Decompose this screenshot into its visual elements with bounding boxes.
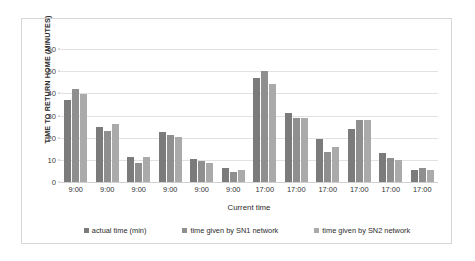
legend-item[interactable]: actual time (min) [84,226,147,235]
x-axis-tick-label: 17:00 [375,185,407,194]
legend-item[interactable]: time given by SN2 network [314,226,410,235]
bar [324,152,331,182]
bar [293,118,300,182]
bar-group [407,49,439,182]
bar [230,172,237,182]
bar-group [155,49,187,182]
x-axis-tick-label: 9:00 [60,185,92,194]
bar [261,71,268,182]
legend-label: actual time (min) [92,226,147,235]
bar-groups [60,49,438,182]
y-axis-tick-label: 10 [48,155,56,164]
x-axis-tick-label: 9:00 [155,185,187,194]
y-axis-title: TIME TO RETURN HOME (MINUTES) [43,10,52,150]
bar [348,129,355,182]
x-axis-tick-label: 17:00 [344,185,376,194]
bar-group [218,49,250,182]
bar [175,137,182,182]
bar [104,131,111,182]
chart-legend: actual time (min)time given by SN1 netwo… [52,226,442,235]
legend-item[interactable]: time given by SN1 network [182,226,278,235]
bar [285,113,292,182]
y-axis-tick-label: 50 [48,67,56,76]
y-axis-tick-label: 0 [52,178,56,187]
bar [332,147,339,182]
chart-figure: TIME TO RETURN HOME (MINUTES) 0102030405… [0,0,475,261]
bar-group [249,49,281,182]
bar [198,161,205,182]
bar [316,139,323,182]
bar [427,170,434,182]
bar [379,153,386,182]
legend-label: time given by SN2 network [322,226,410,235]
bar-group [123,49,155,182]
bar-group [60,49,92,182]
bar [356,120,363,182]
bar [127,157,134,182]
bar-group [186,49,218,182]
bar [64,100,71,182]
x-axis-title: Current time [60,203,438,212]
y-axis-tick-label: 30 [48,111,56,120]
legend-label: time given by SN1 network [190,226,278,235]
bar [143,157,150,182]
bar [253,78,260,182]
x-axis-tick-label: 9:00 [218,185,250,194]
x-axis-tick-label: 9:00 [123,185,155,194]
bar [301,118,308,182]
x-axis-tick-label: 17:00 [281,185,313,194]
gridline [60,182,438,183]
x-axis-tick-label: 17:00 [249,185,281,194]
legend-swatch-icon [314,228,319,233]
bar [159,132,166,182]
y-axis-tick-label: 20 [48,133,56,142]
bar [72,89,79,182]
x-axis-tick-label: 9:00 [92,185,124,194]
y-axis-tick-label: 60 [48,45,56,54]
bar [269,84,276,182]
bar-group [312,49,344,182]
bar [364,120,371,182]
x-axis-tick-label: 17:00 [312,185,344,194]
bar [112,124,119,182]
bar [419,168,426,182]
bar [206,163,213,182]
x-axis-tick-label: 9:00 [186,185,218,194]
bar [190,159,197,182]
bar [96,127,103,182]
bar-group [281,49,313,182]
bar [80,94,87,182]
bar [135,163,142,182]
bar [411,170,418,182]
bar-group [375,49,407,182]
bar [222,168,229,182]
x-axis-tick-labels: 9:009:009:009:009:009:0017:0017:0017:001… [60,185,438,194]
x-axis-tick-label: 17:00 [407,185,439,194]
chart-frame: TIME TO RETURN HOME (MINUTES) 0102030405… [21,18,452,244]
bar-group [92,49,124,182]
bar [238,170,245,182]
y-axis-tick-label: 40 [48,89,56,98]
bar-group [344,49,376,182]
legend-swatch-icon [84,228,89,233]
bar [395,160,402,182]
plot-area: 0102030405060 [60,49,438,182]
bar [167,135,174,182]
legend-swatch-icon [182,228,187,233]
bar [387,158,394,182]
